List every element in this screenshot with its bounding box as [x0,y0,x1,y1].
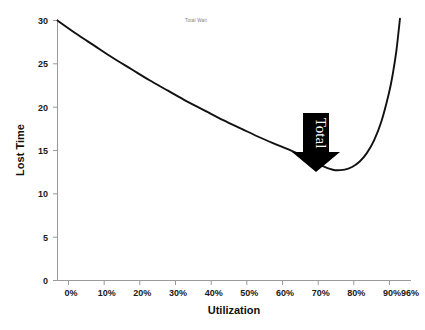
y-tick-label-0: 0 [43,276,48,286]
y-tick-label-15: 15 [38,146,48,156]
lost-time-utilization-chart: 0 5 10 15 20 25 30 0% 10% 20% 30% 40% 50… [0,0,425,330]
series-line-total-wait [58,19,400,170]
x-tick-label-40: 40% [205,288,223,298]
total-arrow-annotation: Total [292,113,340,172]
x-tick-label-60: 60% [276,288,294,298]
chart-legend-title: Total Wait [185,18,208,23]
x-axis-label: Utilization [208,304,261,316]
x-tick-label-90: 90% [383,288,401,298]
x-tick-label-70: 70% [312,288,330,298]
y-axis-label: Lost Time [14,124,26,176]
total-arrow-label: Total [313,118,329,149]
y-tick-label-5: 5 [43,233,48,243]
x-tick-label-50: 50% [240,288,258,298]
x-tick-label-30: 30% [169,288,187,298]
y-tick-label-30: 30 [38,16,48,26]
x-tick-label-0: 0% [64,288,77,298]
x-axis-ticks [69,281,390,286]
x-tick-label-96: 96% [401,288,419,298]
x-tick-label-10: 10% [98,288,116,298]
y-axis-ticks [53,21,58,281]
x-tick-label-20: 20% [133,288,151,298]
y-tick-label-10: 10 [38,189,48,199]
y-tick-label-20: 20 [38,103,48,113]
x-tick-label-80: 80% [347,288,365,298]
chart-container: 0 5 10 15 20 25 30 0% 10% 20% 30% 40% 50… [0,0,425,330]
y-tick-label-25: 25 [38,59,48,69]
